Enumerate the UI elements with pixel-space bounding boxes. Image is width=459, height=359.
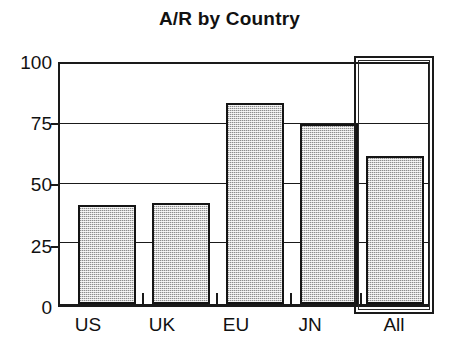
plot-area xyxy=(58,62,430,307)
chart-container: A/R by Country 100 75 50 25 0 US UK EU J… xyxy=(0,0,459,359)
y-axis: 100 75 50 25 0 xyxy=(0,0,52,359)
x-tick-mark-3 xyxy=(290,293,292,304)
bar-jn[interactable] xyxy=(300,124,358,304)
y-tick-label-25: 25 xyxy=(4,237,52,256)
y-tick-mark-75 xyxy=(51,123,58,125)
chart-title: A/R by Country xyxy=(0,8,459,30)
x-tick-label-all: All xyxy=(362,315,426,334)
y-tick-mark-50 xyxy=(51,184,58,186)
x-tick-label-eu: EU xyxy=(204,315,268,334)
y-tick-label-50: 50 xyxy=(4,175,52,194)
bar-uk[interactable] xyxy=(152,203,210,304)
x-tick-mark-1 xyxy=(142,293,144,304)
x-tick-label-jn: JN xyxy=(278,315,342,334)
x-tick-mark-2 xyxy=(216,293,218,304)
bar-eu[interactable] xyxy=(226,103,284,304)
bar-all[interactable] xyxy=(366,156,424,304)
x-tick-label-uk: UK xyxy=(130,315,194,334)
x-tick-mark-4 xyxy=(360,293,362,304)
y-tick-label-0: 0 xyxy=(4,298,52,317)
y-tick-label-100: 100 xyxy=(4,53,52,72)
y-tick-label-75: 75 xyxy=(4,114,52,133)
bar-us[interactable] xyxy=(78,205,136,305)
y-tick-mark-25 xyxy=(51,246,58,248)
x-tick-label-us: US xyxy=(56,315,120,334)
